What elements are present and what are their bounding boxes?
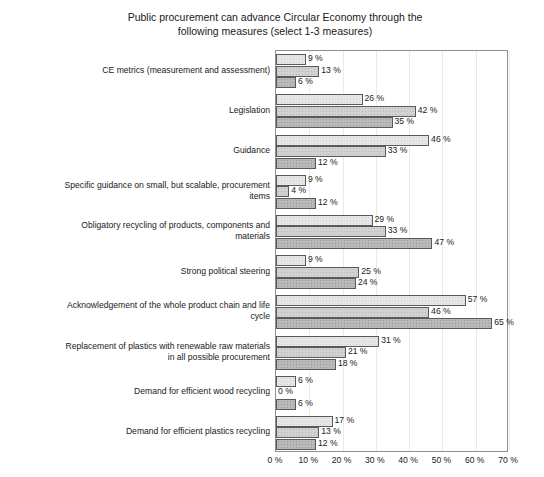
bar [276,255,306,266]
bar-value-label: 12 % [318,437,338,449]
bar [276,226,386,237]
bar [276,238,432,249]
bar-value-label: 13 % [321,425,341,437]
bar-value-label: 17 % [335,414,355,426]
bar-group-item [276,427,509,438]
bar-value-label: 9 % [308,173,323,185]
bar-group-item [276,106,509,117]
bar-value-label: 65 % [494,316,514,328]
bar-value-label: 6 % [298,374,313,386]
x-tick-label: 10 % [298,454,318,466]
category-label: CE metrics (measurement and assessment) [15,65,270,76]
category-label: Guidance [15,145,270,156]
bar-group-item [276,186,509,197]
bar-value-label: 35 % [395,115,415,127]
bar-value-label: 25 % [361,265,381,277]
bar-group-item [276,318,509,329]
x-tick-label: 40 % [398,454,418,466]
bar-group-item [276,439,509,450]
bar [276,427,319,438]
x-tick-label: 60 % [465,454,485,466]
bar-value-label: 13 % [321,64,341,76]
bar [276,318,492,329]
bar-value-label: 9 % [308,253,323,265]
bar [276,399,296,410]
category-label: Demand for efficient plastics recycling [15,426,270,437]
category-label: Acknowledgement of the whole product cha… [15,300,270,322]
chart-title: Public procurement can advance Circular … [60,10,490,38]
bar-value-label: 33 % [388,144,408,156]
bar-group-item [276,117,509,128]
bar-value-label: 6 % [298,75,313,87]
bar-value-label: 12 % [318,196,338,208]
bar-value-label: 46 % [431,133,451,145]
bar [276,77,296,88]
bar-value-label: 0 % [278,385,293,397]
bar-group-item [276,267,509,278]
bar-value-label: 18 % [338,357,358,369]
bar-value-label: 46 % [431,305,451,317]
bar [276,54,306,65]
bar-value-label: 33 % [388,224,408,236]
bar-value-label: 31 % [381,334,401,346]
bar [276,347,346,358]
category-label: Specific guidance on small, but scalable… [15,180,270,202]
bar [276,278,356,289]
x-tick-label: 20 % [332,454,352,466]
bar-group-item [276,238,509,249]
x-tick-label: 0 % [268,454,283,466]
x-tick-label: 50 % [432,454,452,466]
gridline [509,51,510,451]
bar-value-label: 6 % [298,397,313,409]
bar-group-item [276,416,509,427]
bar [276,198,316,209]
category-label: Obligatory recycling of products, compon… [15,220,270,242]
bar [276,117,393,128]
bar [276,215,373,226]
bar-value-label: 26 % [365,92,385,104]
bar-group-item [276,158,509,169]
bar-group-item [276,359,509,370]
bar [276,439,316,450]
bar-group-item [276,307,509,318]
bar [276,267,359,278]
category-label: Legislation [15,105,270,116]
category-label: Strong political steering [15,266,270,277]
x-tick-label: 30 % [365,454,385,466]
bar-group-item [276,94,509,105]
bar [276,158,316,169]
bar-value-label: 12 % [318,156,338,168]
category-label: Demand for efficient wood recycling [15,386,270,397]
bar-group-item [276,347,509,358]
bar-value-label: 42 % [418,104,438,116]
bar [276,186,289,197]
bar-value-label: 4 % [291,184,306,196]
bar-value-label: 9 % [308,52,323,64]
bar-group-item [276,198,509,209]
x-axis: 0 %10 %20 %30 %40 %50 %60 %70 % [275,454,508,472]
bar-value-label: 21 % [348,345,368,357]
x-tick-label: 70 % [498,454,518,466]
bar-chart: Public procurement can advance Circular … [0,0,544,477]
bar-value-label: 29 % [375,213,395,225]
bar-group-item [276,278,509,289]
bar-value-label: 47 % [434,236,454,248]
plot-area [275,50,508,452]
bar [276,307,429,318]
bar [276,359,336,370]
bar [276,94,363,105]
bar-value-label: 24 % [358,276,378,288]
category-label: Replacement of plastics with renewable r… [15,341,270,363]
bar-value-label: 57 % [468,293,488,305]
